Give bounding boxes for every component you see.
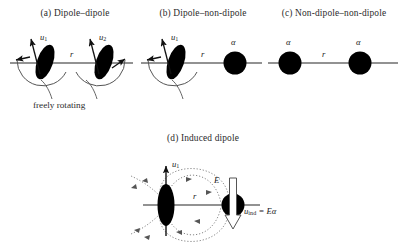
panel-d-field-line-lower-inner: [166, 207, 221, 235]
panel-b-artwork: [141, 39, 262, 99]
panel-b-separation-label: r: [201, 50, 204, 59]
panel-b-axis-arrow-left: [147, 57, 161, 60]
panel-a-artwork: [10, 39, 133, 99]
panel-d-field-arrow-2: [131, 184, 137, 189]
panel-d-field-arrow-4: [206, 190, 212, 195]
panel-c-polarizability-label-1: α: [286, 38, 291, 47]
panel-b-polarizable-sphere: [224, 52, 247, 75]
panel-b-polarizability-label: α: [231, 38, 236, 47]
panel-c-polarizability-label-2: α: [356, 38, 361, 47]
panel-a-dipole-2-label: u2: [99, 33, 106, 42]
panel-a-dipole-1-label: u1: [40, 33, 47, 42]
panel-a-leader-line-1: [41, 80, 52, 99]
panel-b-dipole-body: [163, 42, 190, 81]
panel-d-induced-dipole-label: uind = Eα: [244, 207, 276, 216]
panel-d-separation-label: r: [193, 192, 196, 201]
panel-c-separation-label: r: [322, 50, 325, 59]
panel-d-field-arrow-3: [186, 177, 192, 182]
panel-d-dipole-label: u1: [172, 160, 179, 169]
panel-b-dipole-label: u1: [171, 33, 178, 42]
figure-artwork: [0, 0, 406, 243]
panel-a-dipole-1-body: [32, 42, 59, 81]
panel-c-polarizable-sphere-1: [279, 52, 302, 75]
panel-d-field-arrow-6: [144, 235, 150, 240]
panel-d-field-line-left-lower: [131, 214, 160, 234]
panel-d-dipole-body: [158, 184, 175, 226]
panel-a-separation-label: r: [70, 50, 73, 59]
panel-c-artwork: [268, 52, 398, 75]
panel-a-axis-arrow-left: [16, 57, 30, 60]
panel-d-field-label: E: [214, 176, 219, 185]
panel-d-field-arrow-7: [194, 219, 200, 224]
panel-d-artwork: [131, 166, 260, 241]
figure-intermolecular-interactions: (a) Dipole–dipole (b) Dipole–non-dipole …: [0, 0, 406, 243]
panel-b-leader-line: [172, 80, 183, 99]
panel-c-polarizable-sphere-2: [349, 52, 372, 75]
panel-a-dipole-2-body: [91, 42, 118, 81]
panel-a-annotation: freely rotating: [33, 100, 85, 110]
